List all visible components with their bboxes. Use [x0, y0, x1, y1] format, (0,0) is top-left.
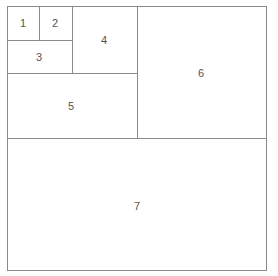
diagram-canvas: 1 2 3 4 5 6 7	[0, 0, 278, 276]
region-label-3: 3	[36, 52, 42, 63]
region-label-1: 1	[20, 18, 26, 29]
region-label-5: 5	[68, 101, 74, 112]
region-label-2: 2	[52, 18, 58, 29]
region-label-6: 6	[198, 68, 204, 79]
region-label-7: 7	[134, 201, 140, 212]
region-label-4: 4	[101, 35, 107, 46]
